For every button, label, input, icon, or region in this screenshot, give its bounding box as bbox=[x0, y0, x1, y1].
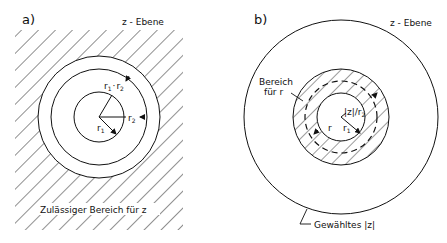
panel-a: a) z - Ebene r1·r2 r2 r1 Zulässiger Bere… bbox=[15, 12, 183, 230]
range-label-line2: für r bbox=[264, 87, 283, 97]
chosen-z-label: Gewähltes |z| bbox=[314, 220, 375, 230]
panel-a-label: a) bbox=[22, 12, 35, 27]
chosen-z-leader-line bbox=[300, 209, 311, 224]
range-label-line1: Bereich bbox=[259, 77, 293, 87]
permitted-region-label: Zulässiger Bereich für z bbox=[40, 205, 147, 215]
panel-b-label: b) bbox=[254, 12, 267, 27]
diagram-canvas: a) z - Ebene r1·r2 r2 r1 Zulässiger Bere… bbox=[0, 0, 447, 243]
label-r: r bbox=[328, 123, 332, 133]
panel-a-plane-label: z - Ebene bbox=[122, 17, 164, 27]
panel-b-plane-label: z - Ebene bbox=[390, 18, 432, 28]
panel-b: b) z - Ebene |z|/r2 r r1 Bereich für r G… bbox=[244, 12, 438, 230]
